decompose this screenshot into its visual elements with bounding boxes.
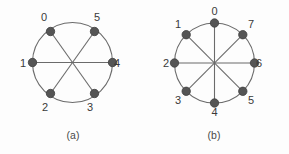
node-label-6: 6: [256, 57, 262, 69]
node-0[interactable]: [46, 27, 54, 35]
node-label-2: 2: [163, 57, 169, 69]
caption-panel-a: (a): [67, 129, 80, 141]
node-0[interactable]: [210, 19, 218, 27]
node-label-1: 1: [175, 18, 181, 30]
node-1[interactable]: [28, 58, 36, 66]
node-7[interactable]: [239, 31, 247, 39]
panel-b: 01234567(b): [163, 5, 262, 141]
node-label-4: 4: [114, 57, 120, 69]
node-label-5: 5: [94, 11, 100, 23]
node-label-3: 3: [87, 101, 93, 113]
node-5[interactable]: [239, 87, 247, 95]
node-3[interactable]: [90, 89, 98, 97]
node-label-7: 7: [248, 18, 254, 30]
node-label-2: 2: [42, 101, 48, 113]
node-label-0: 0: [41, 11, 47, 23]
node-label-3: 3: [175, 94, 181, 106]
node-label-5: 5: [248, 94, 254, 106]
node-label-0: 0: [211, 5, 217, 17]
panel-a: 012345(a): [20, 11, 120, 141]
caption-panel-b: (b): [208, 129, 221, 141]
node-label-1: 1: [20, 57, 26, 69]
node-5[interactable]: [90, 27, 98, 35]
node-3[interactable]: [182, 87, 190, 95]
graph-diagram: 012345(a)01234567(b): [0, 0, 289, 154]
node-1[interactable]: [182, 31, 190, 39]
node-2[interactable]: [170, 59, 178, 67]
node-label-4: 4: [211, 106, 217, 118]
node-2[interactable]: [46, 89, 54, 97]
figure-root: 012345(a)01234567(b): [0, 0, 289, 154]
